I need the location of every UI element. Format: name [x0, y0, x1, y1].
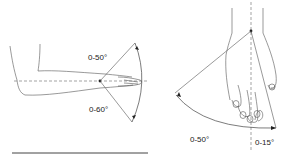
upper-arm-outline: [10, 44, 40, 80]
flexion-extension-arc: [132, 43, 142, 122]
arc-arrow-right-icon: [271, 126, 276, 130]
radial-deviation-range-label: 0-50°: [190, 135, 209, 144]
extension-range-label: 0-50°: [88, 53, 107, 62]
flexion-limit-line: [100, 81, 132, 122]
fingernail: [247, 116, 253, 123]
left-diagram: 0-50° 0-60°: [10, 43, 148, 122]
forearm-top-outline: [38, 71, 132, 77]
arc-arrow-left-icon: [177, 92, 181, 97]
ulnar-deviation-range-label: 0-15°: [255, 138, 274, 147]
flexion-range-label: 0-60°: [89, 105, 108, 114]
right-diagram: 0-50° 0-15°: [175, 2, 276, 150]
ulnar-deviation-limit-line: [251, 31, 276, 128]
fingers-outline: [232, 85, 275, 122]
deviation-arc: [176, 95, 276, 128]
diagram-canvas: 0-50° 0-60° 0-50° 0-15°: [0, 0, 286, 154]
arc-arrow-up-icon: [135, 46, 139, 50]
forearm-bottom-outline: [17, 80, 133, 95]
arc-arrow-down-icon: [132, 115, 136, 119]
hand-outline: [118, 77, 142, 86]
radial-deviation-limit-line: [175, 31, 251, 93]
fingernail: [254, 111, 260, 118]
